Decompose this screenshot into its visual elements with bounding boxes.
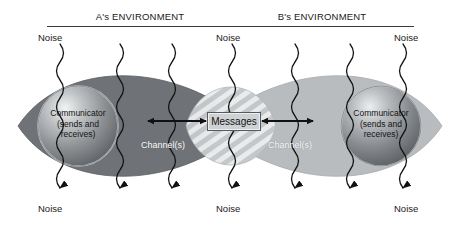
communicator-a-sphere [38, 86, 118, 166]
diagram-canvas: A's ENVIRONMENT B's ENVIRONMENT Noise No… [0, 0, 460, 229]
environment-label-a: A's ENVIRONMENT [96, 11, 185, 22]
noise-label-top-right: Noise [394, 32, 418, 43]
noise-label-bottom-center: Noise [216, 203, 240, 214]
messages-box[interactable]: Messages [207, 112, 261, 131]
noise-label-bottom-right: Noise [394, 203, 418, 214]
noise-label-top-left: Noise [38, 32, 62, 43]
environment-label-b: B's ENVIRONMENT [278, 11, 367, 22]
noise-label-top-center: Noise [216, 32, 240, 43]
noise-label-bottom-left: Noise [38, 203, 62, 214]
